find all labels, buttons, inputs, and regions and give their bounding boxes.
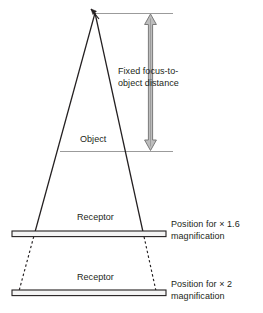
dashed-beam-extension-right [143, 232, 156, 291]
position-label-upper: Position for × 1.6 magnification [171, 219, 263, 242]
radiography-magnification-diagram: Fixed focus-to-object distance Object Re… [0, 0, 263, 313]
receptor-bar-lower [12, 290, 166, 296]
receptor-bar-upper [12, 231, 166, 237]
object-label: Object [78, 134, 108, 146]
beam-edge-right [95, 13, 143, 232]
receptor-label-upper: Receptor [75, 212, 116, 224]
receptor-label-lower: Receptor [75, 272, 116, 284]
position-label-lower: Position for × 2 magnification [171, 279, 263, 302]
diagram-canvas [0, 0, 263, 313]
beam-edge-left [35, 13, 95, 232]
fixed-focus-to-object-distance-label: Fixed focus-to-object distance [118, 66, 196, 89]
dashed-beam-extension-left [19, 232, 35, 291]
